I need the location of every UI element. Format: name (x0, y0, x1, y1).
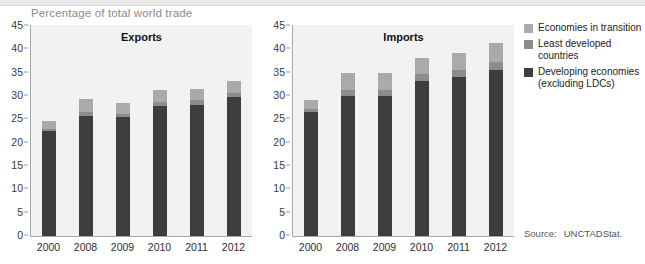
chart-caption: Percentage of total world trade (31, 7, 192, 19)
y-axis-tick-mark (24, 71, 28, 72)
legend-item: Economies in transition (524, 22, 644, 34)
x-axis-tick-label: 2009 (108, 241, 138, 253)
bar-stack (190, 89, 204, 236)
y-axis-tick-mark (24, 165, 28, 166)
chart-panel-exports: 454035302520151050 Exports 2000200820092… (6, 23, 258, 237)
y-axis-tick-label: 15 (11, 159, 23, 171)
y-axis-tick-label: 0 (17, 229, 23, 241)
segment-economies-in-transition (227, 81, 241, 93)
y-axis-tick-label: 5 (279, 206, 285, 218)
y-axis-tick-mark (286, 235, 290, 236)
bar-stack (42, 121, 56, 236)
segment-economies-in-transition (79, 99, 93, 112)
bar-stack (227, 81, 241, 236)
y-axis-tick-mark (286, 141, 290, 142)
segment-developing-economies (227, 97, 241, 236)
x-axis-tick-label: 2012 (481, 241, 511, 253)
x-axis-tick-label: 2011 (182, 241, 212, 253)
bar-stack (116, 103, 130, 236)
segment-least-developed-countries (452, 70, 466, 77)
x-axis-tick-label: 2010 (145, 241, 175, 253)
bar-group-2010 (153, 26, 167, 236)
source-label: Source: (524, 228, 557, 239)
bar-stack (79, 99, 93, 236)
legend-item: Least developed countries (524, 38, 644, 62)
segment-developing-economies (415, 81, 429, 236)
plot-area-imports: Imports (292, 25, 514, 237)
source-note: Source:UNCTADStat. (524, 228, 622, 239)
y-axis-tick-mark (24, 211, 28, 212)
y-axis-tick-mark (24, 235, 28, 236)
y-axis-tick-label: 15 (273, 159, 285, 171)
bar-stack (452, 53, 466, 236)
legend-color-swatch (524, 68, 533, 77)
segment-developing-economies (341, 96, 355, 236)
y-axis-tick-label: 35 (11, 66, 23, 78)
y-axis-tick-mark (24, 141, 28, 142)
y-axis-tick-mark (24, 95, 28, 96)
y-axis-tick-label: 30 (11, 89, 23, 101)
legend-color-swatch (524, 24, 533, 33)
x-axis-tick-label: 2010 (407, 241, 437, 253)
segment-developing-economies (489, 70, 503, 236)
x-axis-labels-imports: 200020082009201020112012 (292, 241, 514, 253)
segment-developing-economies (378, 96, 392, 236)
legend-label-line2: (excluding LDCs) (538, 78, 615, 89)
bar-group-2011 (190, 26, 204, 236)
bar-group-2008 (341, 26, 355, 236)
bar-series-exports (31, 26, 252, 236)
legend: Economies in transitionLeast developed c… (524, 22, 644, 94)
x-axis-tick-label: 2012 (219, 241, 249, 253)
legend-label: Least developed countries (538, 38, 644, 62)
y-axis-tick-label: 20 (273, 136, 285, 148)
y-axis-tick-mark (24, 48, 28, 49)
y-axis-tick-label: 40 (11, 42, 23, 54)
segment-economies-in-transition (42, 121, 56, 129)
plot-area-exports: Exports (30, 25, 252, 237)
y-axis-tick-label: 10 (273, 182, 285, 194)
y-axis-tick-mark (286, 48, 290, 49)
bar-group-2000 (42, 26, 56, 236)
y-axis-exports: 454035302520151050 (6, 23, 28, 235)
segment-economies-in-transition (489, 43, 503, 62)
segment-economies-in-transition (415, 58, 429, 74)
chart-panel-imports: 454035302520151050 Imports 2000200820092… (268, 23, 520, 237)
segment-least-developed-countries (489, 62, 503, 70)
bar-group-2010 (415, 26, 429, 236)
y-axis-tick-mark (286, 71, 290, 72)
y-axis-tick-label: 25 (11, 112, 23, 124)
bar-group-2009 (378, 26, 392, 236)
y-axis-tick-mark (24, 25, 28, 26)
x-axis-labels-exports: 200020082009201020112012 (30, 241, 252, 253)
x-axis-tick-label: 2000 (34, 241, 64, 253)
segment-developing-economies (116, 117, 130, 236)
bar-group-2012 (227, 26, 241, 236)
y-axis-tick-mark (286, 118, 290, 119)
y-axis-tick-mark (286, 211, 290, 212)
segment-developing-economies (153, 106, 167, 236)
y-axis-tick-label: 20 (11, 136, 23, 148)
y-axis-tick-label: 30 (273, 89, 285, 101)
x-axis-tick-label: 2009 (370, 241, 400, 253)
y-axis-tick-label: 5 (17, 206, 23, 218)
source-value: UNCTADStat. (564, 228, 622, 239)
bar-group-2011 (452, 26, 466, 236)
y-axis-tick-label: 10 (11, 182, 23, 194)
top-divider-bar (0, 0, 645, 6)
y-axis-tick-mark (286, 25, 290, 26)
segment-developing-economies (190, 105, 204, 236)
plot-title-imports: Imports (293, 31, 514, 43)
segment-economies-in-transition (378, 73, 392, 90)
bar-series-imports (293, 26, 514, 236)
bar-stack (341, 73, 355, 236)
bar-group-2000 (304, 26, 318, 236)
bar-stack (489, 43, 503, 236)
x-axis-tick-label: 2011 (444, 241, 474, 253)
segment-developing-economies (452, 77, 466, 236)
bar-stack (153, 90, 167, 236)
bar-group-2012 (489, 26, 503, 236)
plot-title-exports: Exports (31, 31, 252, 43)
y-axis-tick-mark (24, 118, 28, 119)
bar-stack (415, 58, 429, 236)
segment-developing-economies (42, 131, 56, 236)
